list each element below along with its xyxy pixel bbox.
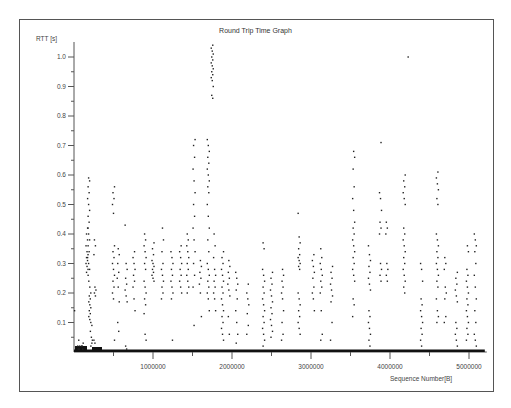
data-point <box>320 263 321 264</box>
data-point <box>436 177 437 178</box>
data-point <box>91 325 92 326</box>
data-point <box>438 316 439 317</box>
data-point <box>86 272 87 273</box>
data-point <box>193 239 194 240</box>
data-point <box>466 298 467 299</box>
data-point <box>313 254 314 255</box>
data-point <box>89 310 90 311</box>
data-point <box>199 272 200 273</box>
data-point <box>126 301 127 302</box>
data-point <box>313 266 314 267</box>
data-point <box>144 263 145 264</box>
data-point <box>212 80 213 81</box>
data-point <box>436 322 437 323</box>
data-point <box>152 248 153 249</box>
y-tick-label: 0.9 <box>57 83 66 90</box>
data-point <box>88 251 89 252</box>
data-point <box>262 286 263 287</box>
data-point <box>421 316 422 317</box>
data-point <box>314 310 315 311</box>
data-point <box>179 281 180 282</box>
data-point <box>113 198 114 199</box>
data-point <box>208 286 209 287</box>
data-point <box>163 281 164 282</box>
data-point <box>404 292 405 293</box>
data-point <box>152 278 153 279</box>
data-point <box>113 213 114 214</box>
data-point <box>352 198 353 199</box>
data-point <box>321 257 322 258</box>
data-point <box>370 260 371 261</box>
data-point <box>188 239 189 240</box>
data-point <box>223 281 224 282</box>
data-point <box>404 263 405 264</box>
data-point <box>211 71 212 72</box>
data-point <box>194 251 195 252</box>
data-point <box>405 204 406 205</box>
data-point <box>312 260 313 261</box>
data-point <box>94 239 95 240</box>
data-point <box>353 304 354 305</box>
data-point <box>81 345 82 346</box>
data-point <box>145 292 146 293</box>
data-point <box>125 295 126 296</box>
data-point <box>437 310 438 311</box>
baseline-band <box>74 350 485 353</box>
data-point <box>222 322 223 323</box>
data-point <box>444 257 445 258</box>
data-point <box>211 77 212 78</box>
data-point <box>272 331 273 332</box>
data-point <box>457 345 458 346</box>
data-point <box>321 286 322 287</box>
data-point <box>436 263 437 264</box>
data-point <box>331 278 332 279</box>
data-point <box>221 269 222 270</box>
data-point <box>88 204 89 205</box>
data-point <box>222 263 223 264</box>
data-point <box>172 340 173 341</box>
data-point <box>78 348 79 349</box>
data-point <box>201 266 202 267</box>
data-point <box>89 210 90 211</box>
data-point <box>422 322 423 323</box>
data-point <box>213 86 214 87</box>
data-point <box>134 251 135 252</box>
data-point <box>207 292 208 293</box>
data-point <box>89 295 90 296</box>
data-point <box>171 257 172 258</box>
data-point <box>330 340 331 341</box>
data-point <box>145 304 146 305</box>
data-point <box>353 210 354 211</box>
data-point <box>134 269 135 270</box>
data-point <box>90 345 91 346</box>
data-point <box>209 180 210 181</box>
data-point <box>387 227 388 228</box>
data-point <box>163 239 164 240</box>
data-point <box>221 328 222 329</box>
data-point <box>403 227 404 228</box>
data-point <box>386 263 387 264</box>
data-point <box>332 295 333 296</box>
data-point <box>320 281 321 282</box>
data-point <box>353 275 354 276</box>
data-point <box>213 233 214 234</box>
data-point <box>387 269 388 270</box>
data-point <box>404 186 405 187</box>
data-point <box>262 345 263 346</box>
data-point <box>353 233 354 234</box>
data-point <box>297 213 298 214</box>
data-point <box>270 307 271 308</box>
data-point <box>379 192 380 193</box>
data-point <box>200 292 201 293</box>
data-point <box>475 340 476 341</box>
data-point <box>85 245 86 246</box>
data-point <box>246 334 247 335</box>
data-point <box>299 254 300 255</box>
data-point <box>93 254 94 255</box>
data-point <box>180 275 181 276</box>
data-point <box>314 272 315 273</box>
data-point <box>368 340 369 341</box>
data-point <box>112 281 113 282</box>
data-point <box>90 292 91 293</box>
data-point <box>444 298 445 299</box>
